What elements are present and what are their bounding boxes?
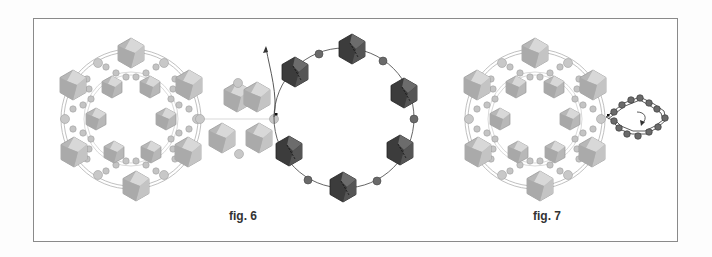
fig6-rosette <box>60 38 202 201</box>
beading-diagram <box>0 0 712 257</box>
fig7-dark-loop <box>606 95 668 140</box>
fig7-rosette <box>464 38 606 201</box>
fig6-dark-ring <box>263 34 418 202</box>
fig6-caption: fig. 6 <box>229 209 257 223</box>
fig7-caption: fig. 7 <box>533 209 561 223</box>
fig6-connector <box>196 79 279 159</box>
